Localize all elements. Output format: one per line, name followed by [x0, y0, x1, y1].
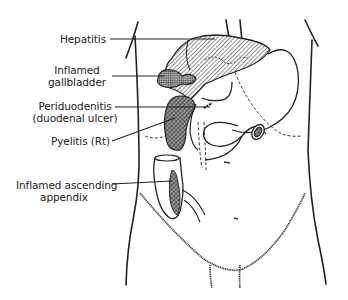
- label-inflamed-appendix: Inflamed ascending appendix: [16, 179, 112, 203]
- label-pyelitis: Pyelitis (Rt): [30, 135, 110, 147]
- label-line: Periduodenitis: [32, 100, 118, 112]
- abdomen-illustration: [0, 0, 348, 300]
- label-line: gallbladder: [44, 76, 110, 88]
- label-hepatitis: Hepatitis: [40, 33, 106, 45]
- label-line: Inflamed: [44, 64, 110, 76]
- label-line: Inflamed ascending: [16, 179, 112, 191]
- liver: [165, 35, 270, 100]
- navel: [224, 162, 238, 219]
- kidney: [164, 96, 212, 150]
- label-inflamed-gallbladder: Inflamed gallbladder: [44, 64, 110, 88]
- duodenum-loop: [204, 122, 267, 160]
- label-line: appendix: [16, 191, 112, 203]
- abdominal-diagram: Hepatitis Inflamed gallbladder Periduode…: [0, 0, 348, 300]
- label-line: (duodenal ulcer): [32, 112, 118, 124]
- ascending-colon: [154, 155, 205, 222]
- label-periduodenitis: Periduodenitis (duodenal ulcer): [32, 100, 118, 124]
